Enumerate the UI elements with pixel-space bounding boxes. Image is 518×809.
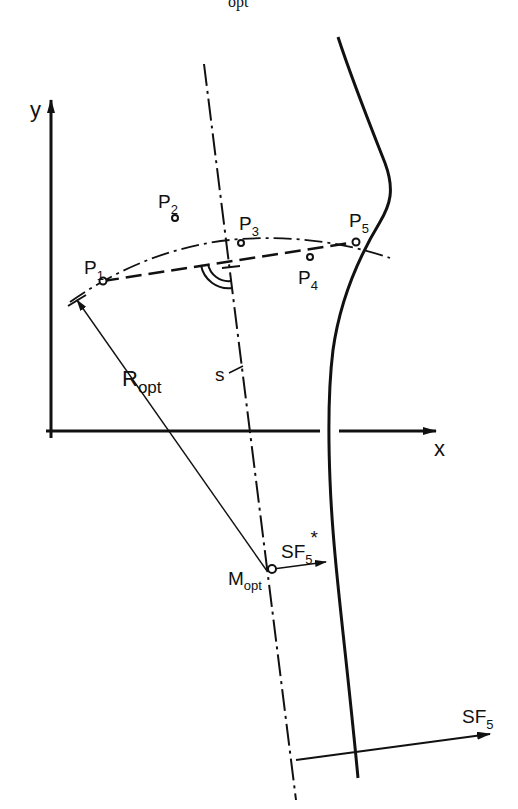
point-p5 bbox=[353, 239, 360, 246]
y-axis: y bbox=[30, 97, 51, 438]
center-point-m-opt bbox=[268, 565, 276, 573]
label-p1: P1 bbox=[84, 257, 104, 283]
label-p5: P5 bbox=[349, 210, 369, 236]
label-sf5-star: SF5* bbox=[281, 527, 319, 567]
label-p4: P4 bbox=[298, 267, 318, 293]
right-angle-mark bbox=[201, 264, 240, 288]
label-s: s bbox=[215, 364, 225, 385]
x-axis-label: x bbox=[434, 436, 445, 461]
label-r-opt: Ropt bbox=[122, 366, 162, 397]
x-axis: x bbox=[46, 431, 445, 461]
label-sf5: SF5 bbox=[462, 706, 494, 732]
bisector-tick bbox=[229, 366, 243, 373]
sf5-arrow bbox=[296, 734, 490, 760]
label-p2: P2 bbox=[158, 191, 178, 217]
label-p3: P3 bbox=[239, 213, 259, 239]
caption-fragment: opt bbox=[228, 0, 249, 11]
y-axis-label: y bbox=[30, 97, 41, 122]
geometry-diagram: opt y x P1 bbox=[0, 0, 518, 809]
profile-curve bbox=[329, 37, 391, 778]
point-p4 bbox=[307, 254, 313, 260]
label-m-opt: Mopt bbox=[228, 568, 262, 593]
point-p3 bbox=[238, 240, 244, 246]
sf5-star-arrow bbox=[273, 562, 326, 569]
fitted-arc bbox=[70, 238, 390, 302]
